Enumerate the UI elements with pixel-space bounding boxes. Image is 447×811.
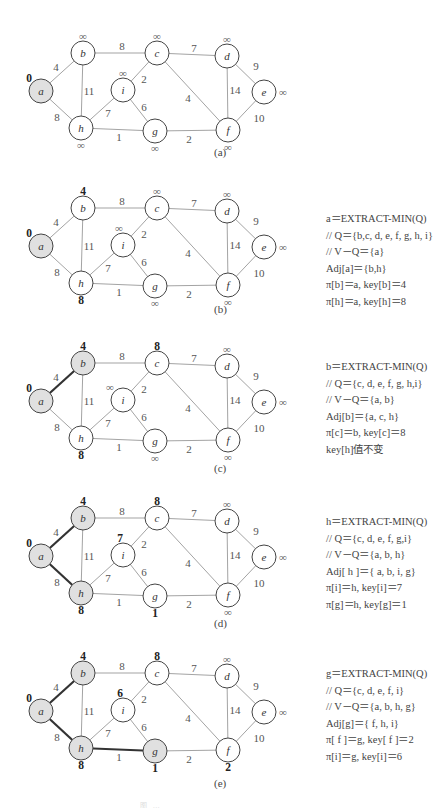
edge-cf (157, 208, 228, 285)
graph-a: 48811724914107162a0b∞c∞d∞e∞f∞g∞h∞i∞ (0, 0, 300, 160)
key-value-g: 1 (152, 762, 158, 774)
edge-weight: 7 (191, 507, 197, 519)
key-value-c: 8 (154, 495, 160, 507)
edge-weight: 4 (185, 247, 191, 259)
key-value-b: ∞ (79, 30, 87, 42)
edge-weight: 8 (54, 266, 60, 278)
key-value-b: 4 (80, 340, 86, 352)
vertex-label: c (155, 512, 160, 524)
edge-weight: 1 (116, 286, 122, 298)
annotation-line: π[c]＝b, key[c]＝8 (326, 425, 427, 442)
edge-weight: 2 (141, 383, 147, 395)
vertex-label: e (262, 551, 267, 563)
annotation-line: π[i]＝g, key[i]＝6 (326, 749, 427, 766)
edge-weight: 4 (185, 92, 191, 104)
annotation-line: // Q＝{c, d, e, f, g, h,i} (326, 376, 427, 393)
edge-weight: 2 (141, 538, 147, 550)
edge-weight: 6 (141, 256, 147, 268)
edge-weight: 7 (191, 42, 197, 54)
vertex-label: h (78, 587, 84, 599)
vertex-label: d (224, 360, 230, 372)
key-value-c: ∞ (153, 30, 161, 42)
key-value-i: ∞ (115, 222, 123, 234)
vertex-label: c (155, 202, 160, 214)
vertex-label: a (38, 395, 44, 407)
vertex-label: b (80, 357, 86, 369)
key-value-e: ∞ (279, 706, 287, 718)
edge-cf (157, 363, 228, 440)
annotation-line: Adj[g]＝{ f, h, i} (326, 716, 427, 733)
vertex-label: g (152, 125, 158, 137)
edge-weight: 2 (186, 753, 192, 765)
key-value-d: ∞ (223, 498, 231, 510)
vertex-label: h (78, 742, 84, 754)
key-value-c: 8 (154, 340, 160, 352)
annotation-line: π[g]＝h, key[g]＝1 (326, 597, 427, 614)
edge-weight: 6 (141, 721, 147, 733)
edge-weight: 14 (230, 704, 242, 716)
panel-a: 48811724914107162a0b∞c∞d∞e∞f∞g∞h∞i∞(a) (0, 0, 447, 160)
edge-weight: 11 (84, 705, 95, 717)
edge-weight: 1 (116, 751, 122, 763)
key-value-i: 6 (117, 687, 123, 699)
key-value-f: 2 (225, 761, 231, 773)
graph-e: 48811724914107162a0b4c8d∞e∞f2g1h8i6 (0, 620, 300, 780)
edge-weight: 2 (186, 598, 192, 610)
annotation-line: Adj[ h ]＝{ a, b, i, g} (326, 564, 427, 581)
edge-weight: 8 (54, 111, 60, 123)
edge-weight: 8 (119, 40, 125, 52)
vertex-label: c (155, 357, 160, 369)
edge-weight: 2 (186, 133, 192, 145)
panel-e: 48811724914107162a0b4c8d∞e∞f2g1h8i6(e)g＝… (0, 620, 447, 780)
vertex-label: e (262, 396, 267, 408)
edge-weight: 6 (141, 101, 147, 113)
annotation-line: // V－Q＝{a, b} (326, 392, 427, 409)
edge-weight: 14 (230, 239, 242, 251)
edge-weight: 2 (141, 228, 147, 240)
vertex-label: e (262, 241, 267, 253)
vertex-label: a (38, 85, 44, 97)
edge-weight: 11 (84, 395, 95, 407)
edge-weight: 8 (119, 505, 125, 517)
vertex-label: a (38, 705, 44, 717)
edge-weight: 8 (119, 350, 125, 362)
graph-d: 48811724914107162a0b4c8d∞e∞f∞g1h8i7 (0, 465, 300, 625)
edge-weight: 7 (105, 107, 111, 119)
edge-weight: 4 (185, 402, 191, 414)
vertex-label: h (78, 277, 84, 289)
key-value-a: 0 (26, 72, 32, 84)
annotation-line: π[ f ]＝g, key[ f ]＝2 (326, 732, 427, 749)
edge-weight: 8 (54, 731, 60, 743)
edge-weight: 8 (119, 660, 125, 672)
edge-weight: 1 (116, 596, 122, 608)
edge-weight: 8 (119, 195, 125, 207)
edge-weight: 2 (141, 693, 147, 705)
key-value-h: 8 (78, 759, 84, 771)
edge-weight: 10 (254, 267, 266, 279)
step-annotation: b＝EXTRACT-MIN(Q)// Q＝{c, d, e, f, g, h,i… (326, 359, 427, 459)
annotation-line: // Q＝{c, d, e, f, i} (326, 683, 427, 700)
key-value-e: ∞ (279, 86, 287, 98)
key-value-i: 7 (117, 532, 123, 544)
key-value-d: ∞ (223, 343, 231, 355)
edge-weight: 11 (84, 550, 95, 562)
key-value-e: ∞ (279, 241, 287, 253)
key-value-b: 4 (80, 650, 86, 662)
vertex-label: c (155, 47, 160, 59)
edge-cf (157, 518, 228, 595)
edge-weight: 2 (141, 73, 147, 85)
key-value-h: ∞ (77, 139, 85, 151)
edge-weight: 4 (185, 712, 191, 724)
edge-weight: 9 (253, 60, 259, 72)
vertex-label: d (224, 515, 230, 527)
edge-weight: 4 (185, 557, 191, 569)
vertex-label: d (224, 670, 230, 682)
step-annotation: a＝EXTRACT-MIN(Q)// Q＝{b,c, d, e, f, g, h… (326, 211, 433, 311)
vertex-label: d (224, 50, 230, 62)
key-value-h: 8 (78, 449, 84, 461)
key-value-g: ∞ (151, 142, 159, 154)
panel-c: 48811724914107162a0b4c8d∞e∞f∞g∞h8i∞(c)b＝… (0, 310, 447, 470)
edge-weight: 7 (105, 262, 111, 274)
subfigure-label: (e) (214, 777, 226, 789)
vertex-label: i (121, 394, 124, 406)
